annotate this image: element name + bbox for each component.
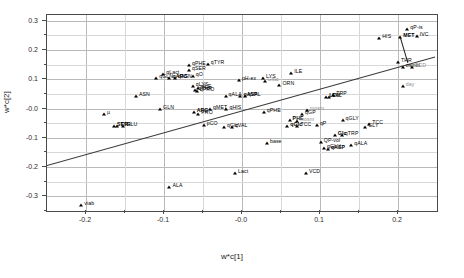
data-point-marker[interactable]	[167, 185, 171, 188]
data-point-marker[interactable]	[295, 124, 299, 127]
data-point-label: qTRP	[345, 131, 359, 137]
x-tick-label: -0.0	[235, 216, 247, 223]
data-point-marker[interactable]	[121, 125, 125, 128]
x-tick-mark	[163, 210, 164, 214]
data-point-marker[interactable]	[405, 27, 409, 30]
data-point-marker[interactable]	[363, 125, 367, 128]
data-point-marker[interactable]	[187, 63, 191, 66]
data-point-label: day	[406, 82, 415, 88]
data-point-label: qVAL	[248, 92, 261, 98]
x-tick-label: 0.2	[392, 216, 402, 223]
x-tick-mark	[319, 210, 320, 214]
data-point-marker[interactable]	[341, 119, 345, 122]
data-point-marker[interactable]	[377, 36, 381, 39]
data-point-marker[interactable]	[265, 141, 269, 144]
y-tick-mark-minor	[44, 34, 47, 35]
data-point-label: base	[270, 139, 282, 145]
data-point-label: MET	[403, 33, 414, 39]
x-tick-mark-minor	[280, 210, 281, 213]
data-point-marker[interactable]	[202, 123, 206, 126]
data-point-marker[interactable]	[401, 84, 405, 87]
data-point-marker[interactable]	[224, 95, 228, 98]
y-tick-mark	[42, 166, 46, 167]
x-tick-mark	[241, 210, 242, 214]
data-point-marker[interactable]	[224, 108, 228, 111]
data-point-label: qGLY	[346, 116, 359, 122]
data-point-marker[interactable]	[349, 143, 353, 146]
data-point-marker[interactable]	[230, 126, 234, 129]
data-point-marker[interactable]	[187, 68, 191, 71]
data-point-label: GLN	[163, 105, 174, 111]
data-point-label: qHIS	[229, 105, 241, 111]
data-point-label: pCO	[207, 121, 218, 127]
data-point-marker[interactable]	[79, 204, 83, 207]
data-point-marker[interactable]	[340, 133, 344, 136]
x-tick-label: -0.1	[157, 216, 169, 223]
y-tick-label: -0.3	[10, 192, 38, 199]
y-tick-mark-minor	[44, 122, 47, 123]
data-point-marker[interactable]	[238, 94, 242, 97]
data-point-marker[interactable]	[192, 111, 196, 114]
data-point-marker[interactable]	[237, 78, 241, 81]
data-point-marker[interactable]	[154, 77, 158, 80]
x-tick-mark	[397, 210, 398, 214]
data-point-label: TCD	[415, 63, 426, 69]
y-tick-mark-minor	[44, 181, 47, 182]
data-point-marker[interactable]	[327, 95, 331, 98]
data-point-marker[interactable]	[196, 112, 200, 115]
data-point-label: Gluc	[268, 77, 279, 83]
data-point-marker[interactable]	[277, 83, 281, 86]
data-point-marker[interactable]	[102, 112, 106, 115]
data-point-marker[interactable]	[326, 148, 330, 151]
x-tick-mark-minor	[202, 210, 203, 213]
data-point-marker[interactable]	[134, 94, 138, 97]
data-point-label: qPRO	[200, 87, 215, 93]
data-point-label: qASP	[331, 145, 345, 151]
data-point-marker[interactable]	[195, 90, 199, 93]
data-point-marker[interactable]	[410, 65, 414, 68]
data-point-marker[interactable]	[262, 110, 266, 113]
data-point-label: Lact	[238, 169, 248, 175]
x-tick-mark-minor	[124, 210, 125, 213]
data-point-marker[interactable]	[233, 171, 237, 174]
data-point-marker[interactable]	[304, 171, 308, 174]
data-point-marker[interactable]	[243, 94, 247, 97]
data-point-marker[interactable]	[396, 61, 400, 64]
data-point-marker[interactable]	[191, 84, 195, 87]
data-point-label: µ	[107, 110, 110, 116]
y-tick-mark	[42, 20, 46, 21]
data-point-label: qPHE	[267, 108, 281, 114]
y-tick-mark	[42, 108, 46, 109]
data-point-marker[interactable]	[319, 140, 323, 143]
data-point-marker[interactable]	[285, 124, 289, 127]
data-point-marker[interactable]	[158, 108, 162, 111]
x-tick-mark-minor	[358, 210, 359, 213]
data-point-marker[interactable]	[401, 65, 405, 68]
y-tick-label: -0.1	[10, 133, 38, 140]
data-point-marker[interactable]	[115, 124, 119, 127]
data-point-marker[interactable]	[315, 124, 319, 127]
data-point-label: viab	[84, 201, 94, 207]
data-point-label: TCC	[300, 122, 311, 128]
data-point-marker[interactable]	[289, 71, 293, 74]
data-point-label: ALA	[172, 183, 182, 189]
data-point-label: qGP	[305, 110, 316, 116]
scatter-plot-chart: qP-isMETIVCHISTHRosmolTCDqTYRqPHEqSERqLa…	[0, 0, 464, 278]
y-axis-title: w*c[2]	[2, 91, 11, 113]
data-point-label: ASN	[139, 92, 150, 98]
data-point-marker[interactable]	[398, 35, 402, 38]
x-tick-label: 0.1	[314, 216, 324, 223]
data-point-marker[interactable]	[167, 77, 171, 80]
data-point-marker[interactable]	[415, 34, 419, 37]
y-tick-label: 0.3	[10, 16, 38, 23]
data-point-marker[interactable]	[206, 63, 210, 66]
data-point-marker[interactable]	[333, 133, 337, 136]
data-point-marker[interactable]	[263, 80, 267, 83]
y-tick-label: -0.0	[10, 104, 38, 111]
data-point-label: GLY	[368, 123, 378, 129]
data-point-label: qO	[196, 72, 203, 78]
x-tick-label: -0.2	[79, 216, 91, 223]
data-point-marker[interactable]	[222, 125, 226, 128]
y-tick-mark-minor	[44, 210, 47, 211]
data-point-label: PRO	[201, 110, 213, 116]
